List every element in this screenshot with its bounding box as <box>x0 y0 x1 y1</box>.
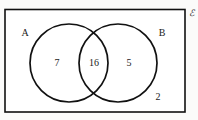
venn-diagram: A B 7 16 5 2 ℰ <box>0 0 198 120</box>
universal-set-symbol: ℰ <box>189 8 196 18</box>
set-b-label: B <box>159 27 166 38</box>
count-outside-sets: 2 <box>156 91 161 102</box>
set-a-label: A <box>21 27 29 38</box>
count-b-only: 5 <box>127 57 132 68</box>
venn-diagram-canvas: A B 7 16 5 2 ℰ <box>0 0 198 120</box>
count-a-only: 7 <box>55 57 60 68</box>
count-intersection: 16 <box>89 57 99 68</box>
